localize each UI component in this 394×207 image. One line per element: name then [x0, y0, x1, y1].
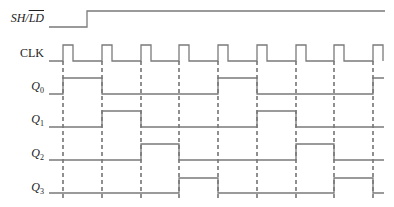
label-q1: Q1	[4, 112, 44, 128]
label-sh-ld: SH/LD	[4, 11, 44, 26]
waveform-q3	[49, 178, 384, 193]
label-clk: CLK	[4, 46, 44, 61]
waveform-q2	[49, 144, 384, 160]
label-q2: Q2	[4, 146, 44, 162]
timing-diagram	[0, 0, 394, 207]
waveform-sh-ld	[49, 11, 385, 27]
waveforms	[49, 11, 385, 193]
label-q3: Q3	[4, 180, 44, 196]
label-q0: Q0	[4, 79, 44, 95]
waveform-clk	[49, 45, 383, 61]
